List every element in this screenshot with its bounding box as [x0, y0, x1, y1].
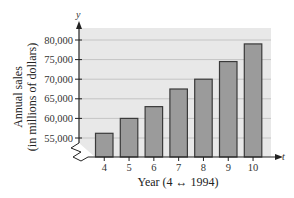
- y-tick-labels: 55,00060,00065,00070,00075,00080,000: [44, 35, 73, 144]
- bar-5: [120, 118, 138, 157]
- x-tick-label: 9: [226, 162, 231, 173]
- y-tick-label: 75,000: [44, 54, 73, 65]
- y-tick-label: 70,000: [44, 74, 73, 85]
- bar-6: [145, 107, 163, 157]
- x-axis-title: Year (4 ↔ 1994): [137, 175, 218, 189]
- bar-chart: 55,00060,00065,00070,00075,00080,000 456…: [0, 0, 294, 198]
- x-tick-label: 10: [248, 162, 259, 173]
- x-tick-label: 7: [176, 162, 181, 173]
- bar-4: [96, 133, 114, 157]
- bar-10: [244, 44, 261, 157]
- y-axis-title-line2: (in millions of dollars): [25, 43, 39, 151]
- x-tick-labels: 45678910: [102, 162, 259, 173]
- x-tick-label: 4: [102, 162, 108, 173]
- y-axis-title-line1: Annual sales: [11, 66, 25, 128]
- y-axis-arrow-icon: [76, 21, 82, 29]
- x-tick-label: 5: [126, 162, 131, 173]
- y-tick-label: 65,000: [44, 93, 73, 104]
- y-tick-label: 60,000: [44, 113, 73, 124]
- bar-7: [170, 89, 188, 157]
- x-tick-label: 8: [201, 162, 206, 173]
- bar-9: [220, 62, 238, 157]
- y-axis-variable: y: [75, 9, 81, 20]
- y-tick-label: 55,000: [44, 133, 73, 144]
- x-axis-variable: t: [282, 151, 285, 162]
- y-tick-label: 80,000: [44, 35, 73, 46]
- bar-8: [195, 79, 213, 157]
- x-tick-label: 6: [151, 162, 156, 173]
